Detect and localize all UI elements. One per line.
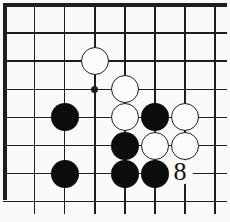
white-stone — [81, 47, 109, 75]
board-grid-vline — [214, 3, 216, 214]
white-stone — [111, 103, 139, 131]
black-stone — [51, 160, 79, 188]
black-stone — [141, 160, 169, 188]
white-stone — [171, 103, 199, 131]
black-stone — [111, 132, 139, 160]
go-board-diagram: 8 — [0, 0, 230, 222]
board-grid-vline — [94, 3, 96, 214]
board-top-edge — [3, 3, 227, 7]
move-number-label: 8 — [167, 159, 193, 185]
board-grid-hline — [3, 32, 227, 34]
white-stone — [111, 75, 139, 103]
white-stone — [141, 132, 169, 160]
board-grid-hline — [3, 60, 227, 62]
board-left-edge — [3, 3, 7, 200]
board-grid-vline — [34, 3, 36, 214]
black-stone — [51, 103, 79, 131]
white-stone — [171, 132, 199, 160]
star-point-marker — [91, 86, 98, 93]
black-stone — [141, 103, 169, 131]
board-grid-hline — [3, 201, 227, 203]
black-stone — [111, 160, 139, 188]
